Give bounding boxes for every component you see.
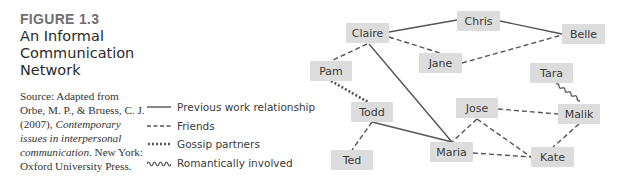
- edge-todd-ted: [352, 122, 372, 150]
- edge-claire-chris: [389, 20, 457, 32]
- edge-jose-maria: [452, 119, 477, 142]
- node-kate: Kate: [531, 147, 574, 167]
- node-belle: Belle: [562, 24, 605, 44]
- node-tara: Tara: [530, 63, 573, 83]
- edge-jane-belle: [462, 35, 562, 63]
- edge-claire-jane: [389, 37, 440, 53]
- edge-pam-todd: [331, 81, 368, 102]
- edge-todd-maria: [372, 122, 452, 142]
- node-maria: Maria: [430, 142, 473, 162]
- edge-maria-kate: [473, 153, 531, 157]
- edge-jose-malik: [498, 109, 558, 114]
- node-chris: Chris: [457, 11, 500, 31]
- edge-claire-pam: [331, 44, 367, 61]
- edge-malik-kate: [553, 124, 579, 147]
- node-jane: Jane: [419, 53, 462, 73]
- edge-jose-kate: [477, 119, 531, 157]
- edge-tara-malik: [556, 84, 580, 101]
- node-pam: Pam: [310, 61, 352, 81]
- node-jose: Jose: [456, 98, 498, 118]
- node-ted: Ted: [331, 150, 373, 170]
- node-malik: Malik: [558, 104, 600, 124]
- edge-chris-belle: [500, 21, 562, 34]
- node-todd: Todd: [351, 102, 393, 122]
- node-claire: Claire: [346, 23, 389, 43]
